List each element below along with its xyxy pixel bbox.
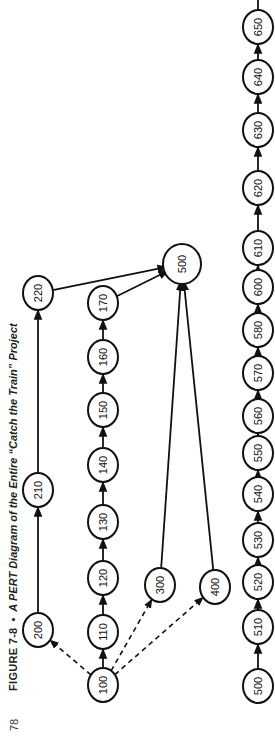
edge-400-500a [184,281,214,570]
node-400: 400 [200,570,230,604]
node-label: 120 [97,569,109,587]
node-170: 170 [88,286,118,320]
node-label: 560 [252,407,264,425]
node-140: 140 [88,448,118,482]
node-label: 650 [252,18,264,36]
node-label: 580 [252,321,264,339]
edge-220-500a [53,267,167,290]
node-label: 130 [97,513,109,531]
node-label: 210 [32,481,44,499]
node-label: 500 [252,677,264,695]
node-label: 640 [252,68,264,86]
node-530: 530 [243,523,273,557]
nodes-layer: 1001101201301401501601702002102203004005… [23,10,273,703]
node-570: 570 [243,356,273,390]
rotated-page: 78 FIGURE 7-8•A PERT Diagram of the Enti… [0,0,275,739]
node-label: 600 [252,278,264,296]
node-120: 120 [88,561,118,595]
node-200: 200 [23,613,53,647]
node-label: 550 [252,444,264,462]
node-610: 610 [243,231,273,265]
node-label: 540 [252,485,264,503]
edge-170-500a [117,271,168,296]
node-label: 300 [154,576,166,594]
node-630: 630 [243,113,273,147]
node-label: 220 [32,284,44,302]
edge-100-200 [50,640,91,675]
node-160: 160 [88,340,118,374]
node-label: 100 [97,676,109,694]
node-label: 530 [252,531,264,549]
node-300: 300 [145,568,175,602]
node-650: 650 [243,10,273,44]
node-label: 110 [97,623,109,641]
node-label: 520 [252,573,264,591]
node-210: 210 [23,473,53,507]
node-560: 560 [243,399,273,433]
node-label: 170 [97,294,109,312]
node-label: 200 [32,621,44,639]
node-600: 600 [243,270,273,304]
pert-diagram: 1001101201301401501601702002102203004005… [0,0,275,739]
node-520: 520 [243,565,273,599]
node-label: 160 [97,348,109,366]
node-540: 540 [243,477,273,511]
node-580: 580 [243,313,273,347]
edge-100-400 [115,597,203,674]
node-label: 500 [176,255,188,273]
node-640: 640 [243,60,273,94]
node-label: 150 [97,401,109,419]
node-100: 100 [88,668,118,702]
node-550: 550 [243,436,273,470]
node-label: 630 [252,121,264,139]
node-220: 220 [23,276,53,310]
node-label: 510 [252,618,264,636]
node-130: 130 [88,505,118,539]
node-label: 140 [97,456,109,474]
node-620: 620 [243,171,273,205]
node-label: 570 [252,364,264,382]
node-label: 620 [252,179,264,197]
node-500b: 500 [243,669,273,703]
node-110: 110 [88,615,118,649]
node-label: 610 [252,239,264,257]
node-510: 510 [243,610,273,644]
node-150: 150 [88,393,118,427]
node-label: 400 [209,578,221,596]
node-500a: 500 [163,244,201,284]
edge-300-500a [161,281,181,568]
